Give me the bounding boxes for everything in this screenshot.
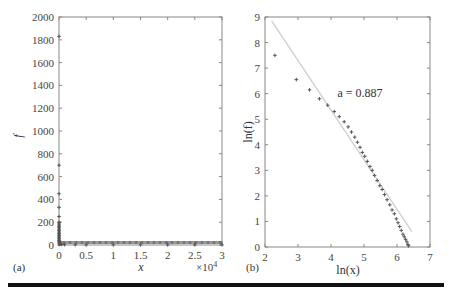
y-tick-label: 200 <box>38 216 55 228</box>
y-tick-label: 8 <box>255 37 261 49</box>
x-axis-label-b: ln(x) <box>336 263 359 277</box>
y-tick-label: 0 <box>255 241 261 253</box>
chart-panel-b: 2345670123456789(b)ln(x)ln(f)a = 0.887 <box>241 11 433 277</box>
x-tick-label: 6 <box>394 251 400 263</box>
x-tick-label: 2 <box>165 249 171 261</box>
x-tick-label: 2 <box>262 251 268 263</box>
y-tick-label: 5 <box>255 113 261 125</box>
y-tick-label: 600 <box>38 171 55 183</box>
axes-frame <box>59 17 222 245</box>
x-tick-label: 0.5 <box>79 249 93 261</box>
fit-line <box>272 21 412 232</box>
x-axis-label-a: x <box>137 260 144 274</box>
x-tick-label: 3 <box>295 251 301 263</box>
y-tick-label: 1400 <box>32 79 55 91</box>
y-tick-label: 2000 <box>32 11 55 23</box>
x-tick-label: 1 <box>111 249 117 261</box>
x-tick-label: 7 <box>427 251 433 263</box>
y-tick-label: 2 <box>255 190 261 202</box>
y-tick-label: 1600 <box>32 57 55 69</box>
x-tick-label: 3 <box>219 249 225 261</box>
figure: 00.511.522.53020040060080010001200140016… <box>0 0 451 294</box>
y-tick-label: 6 <box>255 88 261 100</box>
x-tick-label: 0 <box>56 249 62 261</box>
x-tick-label: 5 <box>361 251 367 263</box>
panel-a-label: (a) <box>13 261 26 274</box>
y-axis-label-a: f <box>11 133 25 138</box>
x-multiplier-a: ×104 <box>196 260 217 273</box>
y-tick-label: 1200 <box>32 102 55 114</box>
slope-annotation: a = 0.887 <box>337 86 382 100</box>
y-tick-label: 4 <box>255 139 261 151</box>
y-tick-label: 9 <box>255 11 261 23</box>
y-tick-label: 1800 <box>32 34 55 46</box>
data-points <box>57 35 224 247</box>
axes-frame <box>265 17 430 247</box>
y-axis-label-b: ln(f) <box>241 121 255 142</box>
data-points <box>273 54 410 248</box>
y-tick-label: 1000 <box>32 125 55 137</box>
panel-b-label: (b) <box>246 261 259 274</box>
y-tick-label: 3 <box>255 164 261 176</box>
bottom-rule <box>8 283 444 287</box>
y-tick-label: 1 <box>255 215 261 227</box>
x-tick-label: 2.5 <box>188 249 202 261</box>
y-tick-label: 0 <box>49 239 55 251</box>
y-tick-label: 800 <box>38 148 55 160</box>
y-tick-label: 7 <box>255 62 261 74</box>
chart-panel-a: 00.511.522.53020040060080010001200140016… <box>11 11 225 274</box>
x-tick-label: 4 <box>328 251 334 263</box>
y-tick-label: 400 <box>38 193 55 205</box>
